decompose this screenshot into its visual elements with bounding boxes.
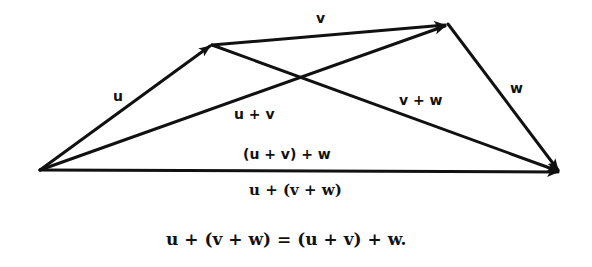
- vector-u-plus-v-plus-w: [40, 170, 558, 172]
- label-v-plus-w: v + w: [399, 92, 443, 108]
- vector-diagram: [0, 0, 592, 267]
- vector-u: [40, 46, 210, 170]
- vector-w: [448, 24, 558, 170]
- associativity-equation: u + (v + w) = (u + v) + w.: [166, 229, 407, 249]
- label-u-plus-vw: u + (v + w): [249, 181, 342, 199]
- label-u-plus-v: u + v: [234, 106, 275, 122]
- label-u: u: [113, 88, 123, 104]
- label-v: v: [316, 10, 325, 26]
- label-w: w: [510, 80, 523, 96]
- label-uv-plus-w: (u + v) + w: [243, 146, 331, 162]
- vector-v: [212, 25, 445, 45]
